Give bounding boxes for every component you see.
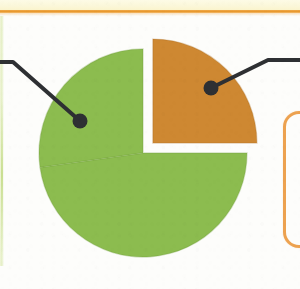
- scan-page: Green segment (upper left) 27% Orange se…: [0, 0, 300, 289]
- right-callout-leader-dot: [204, 81, 219, 96]
- left-callout-leader-line: [0, 62, 80, 121]
- callout-leader-lines: [0, 0, 300, 289]
- right-callout-leader-line: [211, 60, 300, 88]
- left-callout-leader-dot: [73, 114, 88, 129]
